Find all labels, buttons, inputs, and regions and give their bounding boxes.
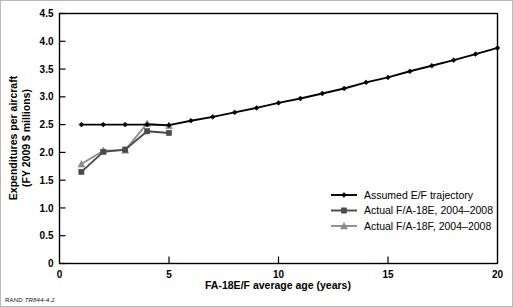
chart-figure: 00.51.01.52.02.53.03.54.04.5 05101520 FA… [0,0,513,307]
y-axis-title-line1: Expenditures per aircraft [7,75,19,200]
y-tick-label: 2.0 [40,147,54,158]
source-note: RAND TR844-4.2 [5,297,55,303]
legend: Assumed E/F trajectoryActual F/A-18E, 20… [331,189,493,232]
y-tick-label: 2.5 [40,119,54,130]
y-tick-label: 1.5 [40,175,54,186]
x-tick-label: 0 [57,269,63,280]
x-tick-label: 10 [273,269,285,280]
data-point-marker [101,149,106,154]
data-point-marker [166,130,171,135]
y-tick-label: 3.0 [40,91,54,102]
y-tick-label: 0.5 [40,230,54,241]
y-tick-label: 4.5 [40,8,54,19]
y-tick-label: 1.0 [40,203,54,214]
y-tick-label: 4.0 [40,36,54,47]
x-tick-label: 20 [492,269,504,280]
legend-swatch-marker [341,208,346,213]
y-axis-title-line2: (FY 2009 $ millions) [20,89,32,187]
source-note-prefix: RAND [5,297,23,303]
legend-label: Assumed E/F trajectory [364,189,474,201]
source-note-code: TR844-4.2 [25,297,55,303]
x-axis-title: FA-18E/F average age (years) [205,279,351,291]
data-point-marker [79,169,84,174]
y-tick-label: 0 [48,258,54,269]
data-point-marker [123,147,128,152]
legend-label: Actual F/A-18F, 2004–2008 [364,220,491,232]
expenditures-per-aircraft-line-chart: 00.51.01.52.02.53.03.54.04.5 05101520 FA… [1,1,513,307]
legend-label: Actual F/A-18E, 2004–2008 [364,204,493,216]
y-tick-label: 3.5 [40,64,54,75]
x-tick-label: 15 [382,269,394,280]
data-point-marker [145,129,150,134]
x-tick-label: 5 [166,269,172,280]
